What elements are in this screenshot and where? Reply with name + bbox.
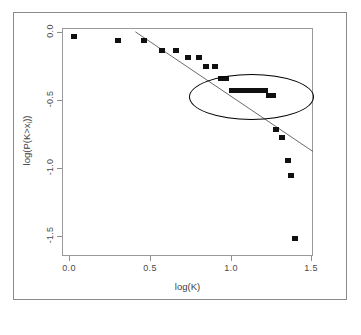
data-point [115,38,121,43]
x-tick-label-2: 1.0 [211,263,251,273]
x-tick-2 [231,256,232,261]
figure-canvas: log(K) log(P(K>xi)) 0.0 0.5 1.0 1.5 0.0 … [0,0,361,335]
data-point [285,158,291,163]
y-tick-label-1: -0.5 [45,79,55,119]
data-points-layer [62,28,313,256]
data-point [196,55,202,60]
data-point [279,135,285,140]
data-point [203,64,209,69]
data-point [141,38,147,43]
x-tick-label-0: 0.0 [49,263,89,273]
data-point [292,236,298,241]
x-tick-3 [311,256,312,261]
x-tick-label-3: 1.5 [291,263,331,273]
data-point [288,173,294,178]
y-tick-label-0: 0.0 [45,11,55,51]
x-axis-label: log(K) [62,281,313,292]
y-axis-label: log(P(K>xi)) [21,80,34,200]
data-point [185,55,191,60]
x-tick-0 [69,256,70,261]
y-tick-label-3: -1.5 [45,215,55,255]
data-point [71,34,77,39]
x-tick-1 [150,256,151,261]
x-tick-label-1: 0.5 [130,263,170,273]
cluster-highlight-ellipse [189,74,314,120]
data-point [212,64,218,69]
data-point [173,48,179,53]
y-tick-label-2: -1.0 [45,147,55,187]
data-point [159,48,165,53]
data-point [273,127,279,132]
